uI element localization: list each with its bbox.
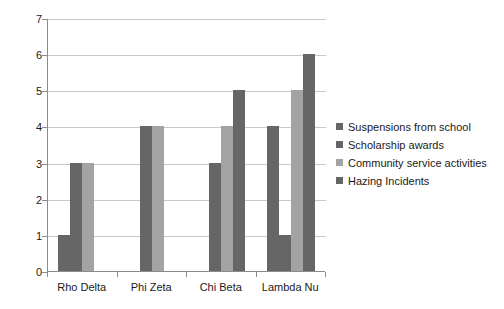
legend-item[interactable]: Community service activities bbox=[336, 154, 487, 171]
legend-item[interactable]: Hazing Incidents bbox=[336, 172, 487, 189]
gridline-7 bbox=[48, 19, 326, 20]
y-tick-label-7: 7 bbox=[28, 14, 42, 25]
y-tick-mark-7 bbox=[42, 19, 47, 20]
y-tick-mark-5 bbox=[42, 91, 47, 92]
x-tick-mark-3 bbox=[256, 272, 257, 277]
legend-swatch-icon bbox=[336, 141, 343, 148]
bar bbox=[140, 126, 152, 271]
gridline-6 bbox=[48, 55, 326, 56]
y-tick-mark-2 bbox=[42, 200, 47, 201]
bar bbox=[303, 54, 315, 271]
bar bbox=[291, 90, 303, 271]
legend-label: Community service activities bbox=[348, 157, 487, 169]
bar bbox=[209, 163, 221, 271]
legend-swatch-icon bbox=[336, 159, 343, 166]
y-tick-mark-4 bbox=[42, 127, 47, 128]
x-tick-mark-2 bbox=[186, 272, 187, 277]
x-tick-mark-1 bbox=[117, 272, 118, 277]
bar bbox=[152, 126, 164, 271]
y-tick-label-1: 1 bbox=[28, 231, 42, 242]
legend-label: Hazing Incidents bbox=[348, 175, 429, 187]
y-tick-label-4: 4 bbox=[28, 122, 42, 133]
bar bbox=[279, 235, 291, 271]
legend-item[interactable]: Suspensions from school bbox=[336, 118, 487, 135]
legend-item[interactable]: Scholarship awards bbox=[336, 136, 487, 153]
gridline-5 bbox=[48, 91, 326, 92]
legend-swatch-icon bbox=[336, 177, 343, 184]
x-category-label-rho-delta: Rho Delta bbox=[47, 281, 117, 294]
gridline-4 bbox=[48, 127, 326, 128]
y-tick-label-2: 2 bbox=[28, 195, 42, 206]
x-category-label-phi-zeta: Phi Zeta bbox=[117, 281, 187, 294]
bar bbox=[221, 126, 233, 271]
y-axis: 01234567 bbox=[26, 19, 42, 272]
y-tick-label-0: 0 bbox=[28, 267, 42, 278]
plot-area bbox=[47, 19, 325, 272]
x-tick-mark-0 bbox=[47, 272, 48, 277]
legend-label: Scholarship awards bbox=[348, 139, 444, 151]
bar-chart: 01234567 Rho DeltaPhi ZetaChi BetaLambda… bbox=[0, 0, 504, 309]
legend: Suspensions from schoolScholarship award… bbox=[336, 118, 487, 190]
bar bbox=[70, 163, 82, 271]
bar bbox=[82, 163, 94, 271]
y-tick-label-5: 5 bbox=[28, 86, 42, 97]
bar bbox=[233, 90, 245, 271]
bar bbox=[58, 235, 70, 271]
y-tick-label-3: 3 bbox=[28, 159, 42, 170]
legend-swatch-icon bbox=[336, 123, 343, 130]
x-category-label-chi-beta: Chi Beta bbox=[186, 281, 256, 294]
x-category-label-lambda-nu: Lambda Nu bbox=[256, 281, 326, 294]
legend-label: Suspensions from school bbox=[348, 121, 471, 133]
y-tick-mark-1 bbox=[42, 236, 47, 237]
y-tick-mark-6 bbox=[42, 55, 47, 56]
y-tick-mark-3 bbox=[42, 164, 47, 165]
y-tick-label-6: 6 bbox=[28, 50, 42, 61]
bar bbox=[267, 126, 279, 271]
x-tick-mark-4 bbox=[325, 272, 326, 277]
